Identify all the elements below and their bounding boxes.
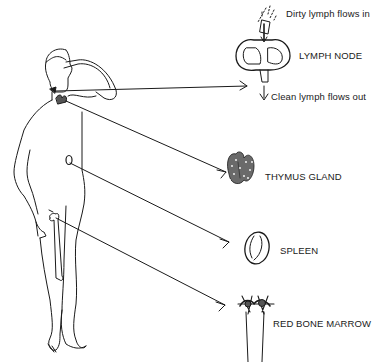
spleen-icon [242,230,271,266]
arrow-to-marrow [56,218,225,305]
thymus-icon [227,152,254,184]
bone-marrow-icon [238,296,274,362]
lymph-node-label: LYMPH NODE [299,50,362,61]
arrow-to-thymus [66,101,226,172]
arrow-to-spleen [70,163,229,242]
dirty-lymph-label: Dirty lymph flows in [286,8,370,19]
body-thymus-marker-icon [56,95,67,104]
lymphatic-system-diagram: Dirty lymph flows in LYMPH NODE Clean ly… [0,0,390,362]
clean-lymph-label: Clean lymph flows out [271,91,366,102]
arrow-to-lymph-node [56,86,247,91]
bone-marrow-label: RED BONE MARROW [273,318,371,329]
spleen-label: SPLEEN [280,245,318,256]
human-figure-icon [14,49,116,352]
thymus-label: THYMUS GLAND [265,171,342,182]
